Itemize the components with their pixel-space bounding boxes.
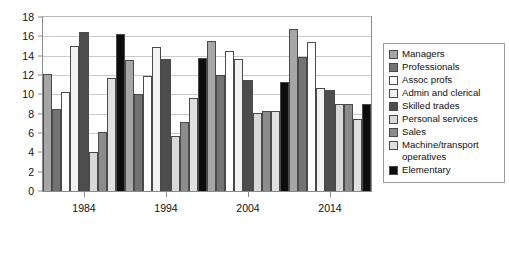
bar [344,104,353,191]
bar [198,58,207,191]
bar [79,32,88,191]
legend-item-label: Assoc profs [402,74,452,86]
bar [134,94,143,191]
legend-item: Managers [389,48,500,60]
legend-swatch-icon [389,50,398,59]
y-axis-tick-mark [38,55,42,56]
y-axis-tick-mark [38,36,42,37]
legend-item: Skilled trades [389,100,500,112]
legend-item-label: Sales [402,126,426,138]
bar [125,60,134,191]
legend-item: Machine/transport operatives [389,139,500,163]
y-axis-tick-label: 2 [0,166,34,177]
legend-item-label: Machine/transport operatives [402,139,479,163]
bar [325,90,334,192]
y-axis-tick-mark [38,133,42,134]
bar [98,132,107,191]
bar [52,109,61,191]
bar-chart: 024681012141618 1984199420042014 Manager… [0,0,509,253]
bar-group-1994 [125,17,207,191]
x-axis-tick-mark [84,192,85,197]
bar [116,34,125,191]
legend-item-label: Professionals [402,61,460,73]
legend-item: Sales [389,126,500,138]
bar [171,136,180,191]
legend-item-label: Managers [402,48,445,60]
legend-item: Assoc profs [389,74,500,86]
bar [353,119,362,191]
bar [362,104,371,191]
legend-swatch-icon [389,166,398,175]
bar [43,74,52,191]
y-axis: 024681012141618 [0,16,42,192]
bar [143,76,152,191]
y-axis-tick-label: 4 [0,147,34,158]
bar [180,122,189,191]
bar-groups [43,17,371,191]
y-axis-tick-mark [38,191,42,192]
legend-item: Admin and clerical [389,87,500,99]
legend: ManagersProfessionalsAssoc profsAdmin an… [383,43,505,183]
y-axis-tick-mark [38,75,42,76]
y-axis-tick-label: 0 [0,186,34,197]
x-axis-tick-mark [330,192,331,197]
x-axis-tick-mark [166,192,167,197]
bar [216,75,225,191]
y-axis-tick-label: 6 [0,128,34,139]
x-axis-tick-label: 1984 [72,202,95,214]
y-axis-tick-mark [38,152,42,153]
y-axis-tick-label: 12 [0,70,34,81]
y-axis-tick-label: 14 [0,50,34,61]
bar [107,78,116,191]
x-axis-tick-mark [248,192,249,197]
legend-swatch-icon [389,115,398,124]
legend-item: Elementary [389,164,500,176]
bar [316,88,325,191]
legend-item-label: Personal services [402,113,478,125]
legend-item-label: Skilled trades [402,100,460,112]
bar [307,42,316,191]
bar [298,57,307,191]
legend-swatch-icon [389,102,398,111]
bar [225,51,234,191]
legend-swatch-icon [389,76,398,85]
bar [253,113,262,191]
legend-item: Professionals [389,61,500,73]
x-axis-tick-label: 1994 [154,202,177,214]
bar [161,59,170,191]
legend-swatch-icon [389,89,398,98]
bar [234,59,243,191]
legend-item-label: Elementary [402,164,451,176]
x-axis-tick-label: 2004 [236,202,259,214]
y-axis-tick-label: 10 [0,89,34,100]
bar [271,111,280,191]
bar [207,41,216,191]
bar [189,98,198,191]
y-axis-tick-label: 8 [0,108,34,119]
bar [152,47,161,191]
legend-item-label: Admin and clerical [402,87,480,99]
y-axis-tick-mark [38,94,42,95]
x-axis-tick-label: 2014 [318,202,341,214]
bar [243,80,252,191]
y-axis-tick-mark [38,113,42,114]
legend-swatch-icon [389,63,398,72]
bar [89,152,98,191]
legend-swatch-icon [389,141,398,150]
bar [262,111,271,191]
y-axis-tick-label: 18 [0,12,34,23]
bar [280,82,289,191]
bar-group-2004 [207,17,289,191]
bar-group-1984 [43,17,125,191]
bar [70,46,79,191]
legend-swatch-icon [389,128,398,137]
y-axis-tick-mark [38,17,42,18]
bar-group-2014 [289,17,371,191]
bar [335,104,344,191]
bar [61,92,70,191]
y-axis-tick-label: 16 [0,31,34,42]
x-axis: 1984199420042014 [43,192,371,220]
bar [289,29,298,191]
legend-item: Personal services [389,113,500,125]
y-axis-tick-mark [38,171,42,172]
